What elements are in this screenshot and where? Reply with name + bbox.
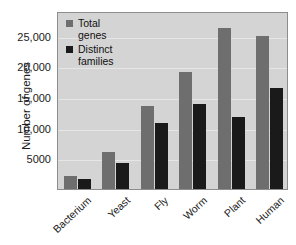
x-axis-tick-label-worm: Worm [180, 194, 209, 222]
x-axis-tick-label-human: Human [253, 194, 286, 226]
x-axis-tick-label-fly: Fly [152, 194, 170, 212]
x-axis-tick-labels: BacteriumYeastFlyWormPlantHuman [0, 0, 296, 245]
x-axis-tick-label-bacterium: Bacterium [51, 194, 94, 235]
bar-chart: Number of genes 500010,00015,00020,00025… [0, 0, 296, 245]
x-axis-tick-label-plant: Plant [222, 194, 248, 219]
x-axis-tick-label-yeast: Yeast [105, 194, 132, 220]
